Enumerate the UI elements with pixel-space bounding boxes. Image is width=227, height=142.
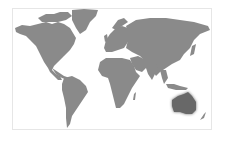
region-south-america[interactable] [62, 76, 88, 128]
region-arctic-islands[interactable] [38, 12, 72, 22]
region-europe[interactable] [104, 26, 130, 52]
region-madagascar[interactable] [133, 92, 136, 100]
region-southeast-asia[interactable] [160, 70, 168, 84]
region-india[interactable] [146, 62, 158, 80]
region-new-zealand[interactable] [200, 112, 206, 120]
region-indonesia[interactable] [166, 84, 188, 90]
region-australia[interactable] [172, 92, 196, 114]
world-map [0, 0, 227, 142]
region-north-america[interactable] [15, 22, 76, 80]
region-greenland[interactable] [72, 9, 98, 34]
